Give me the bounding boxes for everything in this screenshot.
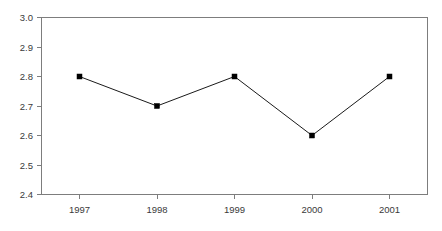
- x-axis-label: 1999: [224, 204, 245, 215]
- y-axis-label: 3.0: [20, 12, 33, 23]
- data-point-marker: [387, 74, 392, 79]
- line-chart: 3.0 2.9 2.8 2.7 2.6 2.5 2.4 1997 1998 19…: [0, 0, 442, 231]
- chart-canvas: 3.0 2.9 2.8 2.7 2.6 2.5 2.4 1997 1998 19…: [0, 0, 442, 231]
- data-point-marker: [155, 104, 160, 109]
- x-axis-label: 1998: [146, 204, 167, 215]
- y-axis-label: 2.4: [20, 189, 33, 200]
- x-axis-label: 1997: [69, 204, 90, 215]
- y-axis-label: 2.6: [20, 130, 33, 141]
- x-axis-label: 2000: [301, 204, 322, 215]
- y-axis-label: 2.7: [20, 101, 33, 112]
- y-axis-label: 2.8: [20, 71, 33, 82]
- data-point-marker: [232, 74, 237, 79]
- y-axis-label: 2.5: [20, 160, 33, 171]
- y-axis-label: 2.9: [20, 42, 33, 53]
- chart-background: [0, 0, 442, 231]
- x-axis-label: 2001: [379, 204, 400, 215]
- data-point-marker: [77, 74, 82, 79]
- data-point-marker: [310, 133, 315, 138]
